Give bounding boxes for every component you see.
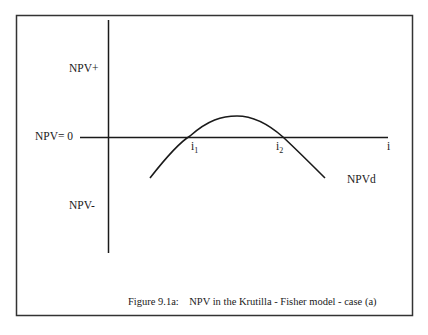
x-axis-label: i [387, 141, 390, 153]
npv-plus-label: NPV+ [69, 63, 99, 75]
root-i2-subscript: 2 [279, 146, 283, 155]
figure-number: Figure 9.1a: [128, 296, 179, 307]
npv-zero-label: NPV= 0 [35, 131, 73, 143]
npvd-label: NPVd [347, 174, 376, 186]
diagram-canvas [0, 0, 428, 335]
npv-minus-label: NPV- [69, 200, 95, 212]
figure-caption-text: NPV in the Krutilla - Fisher model - cas… [189, 296, 376, 307]
figure-caption: Figure 9.1a: NPV in the Krutilla - Fishe… [128, 297, 377, 308]
figure: NPV+ NPV= 0 NPV- i1 i2 i NPVd Figure 9.1… [0, 0, 428, 335]
npvd-curve [150, 116, 325, 178]
figure-frame [17, 16, 413, 316]
root-i1-label: i1 [191, 141, 198, 155]
root-i2-label: i2 [276, 141, 283, 155]
root-i1-subscript: 1 [194, 146, 198, 155]
